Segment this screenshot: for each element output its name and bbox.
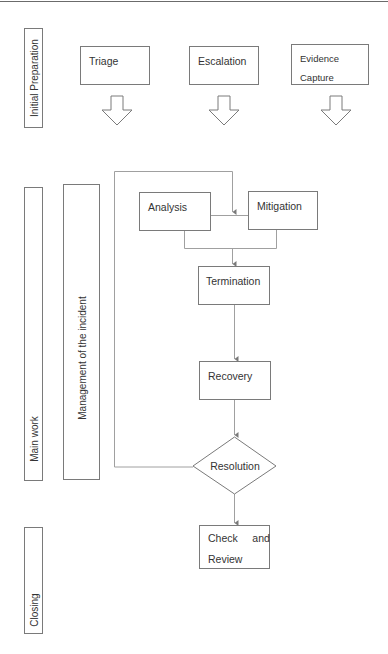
step-label: Triage [89,55,118,67]
step-mitigation: Mitigation [248,191,318,230]
step-label-line2: Review [208,549,269,570]
connectors [0,0,388,654]
step-evidence-capture: Evidence Capture [291,44,369,85]
step-escalation: Escalation [189,46,259,85]
step-label: Mitigation [257,200,302,212]
step-label-line2: Capture [300,68,368,87]
step-label: Analysis [148,201,187,213]
step-analysis: Analysis [139,192,211,231]
down-arrow-icon [102,96,351,125]
resolution-label: Resolution [210,460,260,472]
step-label-line1: Check and [208,528,269,549]
step-termination: Termination [198,266,270,305]
step-check-review: Check and Review [199,525,270,569]
step-label-line1: Evidence [300,49,368,68]
step-label: Termination [206,275,260,287]
step-label: Recovery [208,370,252,382]
step-label: Escalation [198,55,246,67]
step-triage: Triage [80,46,150,85]
step-recovery: Recovery [199,361,271,400]
